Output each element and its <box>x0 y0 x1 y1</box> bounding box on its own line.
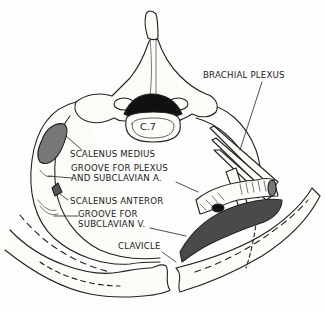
label-clavicle: CLAVICLE <box>118 241 161 251</box>
spinous-process <box>145 11 158 40</box>
thoracic-inlet-illustration <box>0 0 325 312</box>
label-scalenus-anterior: SCALENUS ANTEROR <box>70 196 163 206</box>
label-groove-vein-line2: SUBCLAVIAN V. <box>78 219 145 229</box>
anatomical-diagram: C.7 BRACHIAL PLEXUS SCALENUS MEDIUS GROO… <box>0 0 325 312</box>
label-groove-plexus-line1: GROOVE FOR PLEXUS <box>71 163 168 173</box>
label-brachial-plexus: BRACHIAL PLEXUS <box>203 70 285 80</box>
label-groove-plexus-line2: AND SUBCLAVIAN A. <box>71 173 162 183</box>
label-groove-vein-line1: GROOVE FOR <box>78 209 138 219</box>
leader-clavicle <box>162 252 176 262</box>
label-scalenus-medius: SCALENUS MEDIUS <box>70 149 155 159</box>
vertebra-label-c7: C.7 <box>140 121 156 132</box>
